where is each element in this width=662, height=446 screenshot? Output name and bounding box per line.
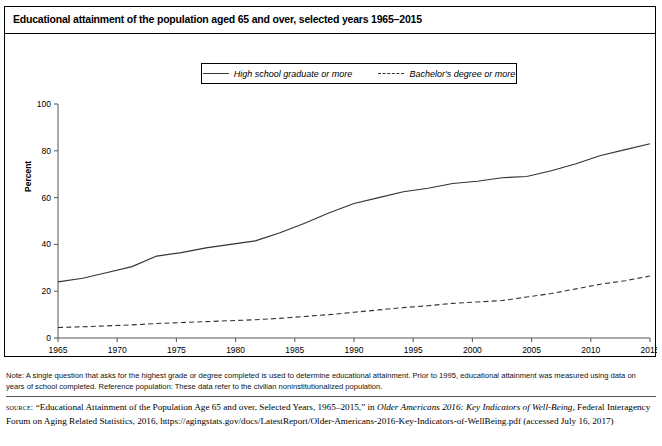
x-tick-label: 2000 <box>463 345 482 355</box>
line-chart-plot: 0204060801001965197019751980198519901995… <box>5 7 657 358</box>
x-tick-label: 1995 <box>404 345 423 355</box>
x-tick-label: 1965 <box>49 345 68 355</box>
y-tick-label: 80 <box>42 146 52 156</box>
series-line-high-school <box>58 144 650 282</box>
x-tick-label: 2015 <box>641 345 657 355</box>
x-tick-label: 1990 <box>345 345 364 355</box>
figure-source: source: “Educational Attainment of the P… <box>6 401 658 427</box>
source-title-italic: Older Americans 2016: Key Indicators of … <box>377 402 575 412</box>
x-tick-label: 1975 <box>167 345 186 355</box>
x-tick-label: 2010 <box>581 345 600 355</box>
figure-page: Educational attainment of the population… <box>0 0 662 446</box>
y-tick-label: 0 <box>46 333 51 343</box>
figure-frame: Educational attainment of the population… <box>4 6 656 357</box>
y-tick-label: 40 <box>42 239 52 249</box>
y-tick-label: 60 <box>42 193 52 203</box>
source-label: source: <box>6 403 33 412</box>
source-divider <box>6 396 656 397</box>
source-part-1: “Educational Attainment of the Populatio… <box>33 402 377 412</box>
x-tick-label: 1980 <box>226 345 245 355</box>
figure-note: Note: A single question that asks for th… <box>6 370 656 393</box>
series-line-bachelors <box>58 276 650 327</box>
y-tick-label: 100 <box>37 99 51 109</box>
x-tick-label: 2005 <box>522 345 541 355</box>
x-tick-label: 1985 <box>285 345 304 355</box>
x-tick-label: 1970 <box>108 345 127 355</box>
y-tick-label: 20 <box>42 286 52 296</box>
